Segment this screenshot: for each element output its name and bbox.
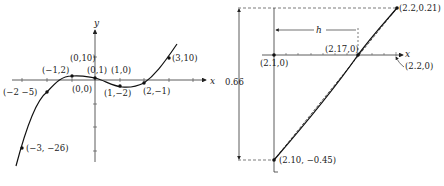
h-label: h bbox=[316, 25, 322, 35]
point-label-0: (0,1) bbox=[87, 65, 107, 75]
origin-right-label: (2.1,0) bbox=[260, 58, 288, 68]
point-label-m1: (−1,2) bbox=[42, 65, 69, 75]
point-label-1: (1,−2) bbox=[104, 88, 131, 98]
secant-line bbox=[274, 8, 397, 160]
point-label-m2: (−2 −5) bbox=[3, 87, 37, 97]
left-x-axis-label: x bbox=[210, 76, 215, 86]
point-label-m3: (−3, −26) bbox=[26, 143, 69, 153]
left-y-axis-label: y bbox=[93, 18, 100, 28]
bottom-point-label: (2.10, −0.45) bbox=[279, 155, 336, 165]
dimension-label: 0.66 bbox=[225, 77, 244, 87]
left-cubic-plot: y x (−3, −26) (−2 −5) (−1,2) (0,1) (1,−2… bbox=[3, 18, 215, 166]
right-zoom-plot: 0.66 h x (2.2,0.21) (2.10, −0.45) (2 bbox=[225, 3, 441, 172]
x-tick-label-1: (1,0) bbox=[111, 65, 131, 75]
figure-canvas: y x (−3, −26) (−2 −5) (−1,2) (0,1) (1,−2… bbox=[0, 0, 444, 186]
point-label-2: (2,−1) bbox=[143, 86, 170, 96]
x-end-pointer bbox=[396, 57, 404, 67]
point-label-3: (3,10) bbox=[172, 53, 198, 63]
right-x-axis-label: x bbox=[405, 49, 410, 59]
origin-label: (0,0) bbox=[72, 84, 92, 94]
root-label: (2.17,0) bbox=[325, 44, 359, 54]
top-point-label: (2.2,0.21) bbox=[399, 3, 441, 13]
x-end-label: (2.2,0) bbox=[405, 61, 433, 71]
y-tick-label-10: (0,10) bbox=[70, 53, 96, 63]
